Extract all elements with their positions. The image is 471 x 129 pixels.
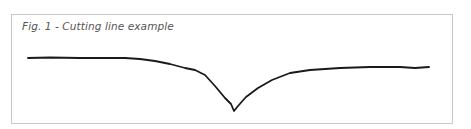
cutting-line [28, 58, 429, 112]
cutting-line-diagram [0, 0, 471, 129]
